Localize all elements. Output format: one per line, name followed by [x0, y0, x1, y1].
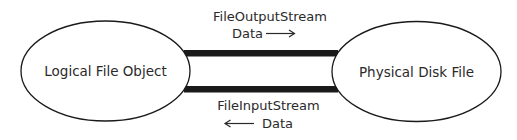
input-data-label: Data	[262, 116, 293, 131]
input-stream-annotation: FileInputStream Data	[217, 98, 319, 131]
node-physical-disk-file: Physical Disk File	[332, 22, 501, 122]
arrow-right-icon	[266, 30, 295, 37]
output-stream-bar	[184, 50, 338, 57]
output-data-label: Data	[232, 26, 263, 41]
physical-disk-label: Physical Disk File	[359, 64, 474, 80]
file-stream-diagram: Logical File Object Physical Disk File F…	[0, 0, 517, 140]
node-logical-file-object: Logical File Object	[21, 21, 190, 121]
logical-file-label: Logical File Object	[44, 63, 166, 79]
input-stream-bar	[184, 86, 338, 93]
input-stream-label: FileInputStream	[217, 98, 319, 113]
arrow-left-icon	[225, 120, 254, 127]
output-stream-label: FileOutputStream	[213, 9, 327, 24]
output-stream-annotation: FileOutputStream Data	[213, 9, 327, 41]
diagram-canvas: Logical File Object Physical Disk File F…	[0, 0, 517, 140]
